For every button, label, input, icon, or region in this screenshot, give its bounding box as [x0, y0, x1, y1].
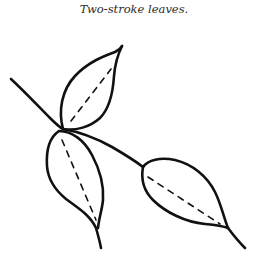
- right-leaf: [142, 159, 245, 248]
- branch-stem: [11, 79, 143, 167]
- leaves-illustration: [0, 0, 264, 277]
- top-leaf: [61, 46, 122, 130]
- lower-left-leaf: [47, 131, 103, 248]
- figure: Two-stroke leaves.: [0, 0, 264, 277]
